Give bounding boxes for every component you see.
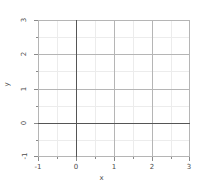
tick-label-x--1: -1	[35, 164, 42, 171]
tick-y-minor-2.5	[36, 37, 38, 38]
tick-label-x-3: 3	[187, 164, 191, 171]
plot-area	[38, 20, 190, 157]
tick-x-minor-1.5	[133, 157, 134, 159]
tick-y-0	[34, 123, 38, 124]
tick-label-y--1: -1	[22, 153, 29, 160]
tick-label-y-3: 3	[21, 18, 28, 22]
tick-x-3	[189, 157, 190, 161]
zero-axis-horizontal	[38, 123, 190, 124]
tick-label-y-2: 2	[21, 52, 28, 56]
tick-y-minor-1.5	[36, 71, 38, 72]
tick-x-minor-0.5	[95, 157, 96, 159]
chart-figure: -1 0 1 2 3 3 2 1 0 -1 x y	[0, 0, 203, 189]
tick-y--1	[34, 156, 38, 157]
gridline-major-x--1	[38, 20, 39, 157]
zero-axis-vertical	[76, 20, 77, 157]
gridline-major-x-3	[189, 20, 190, 157]
tick-x-0	[76, 157, 77, 161]
tick-label-y-1: 1	[21, 87, 28, 91]
tick-x-1	[114, 157, 115, 161]
tick-y-3	[34, 20, 38, 21]
tick-x-minor--0.5	[57, 157, 58, 159]
tick-y-2	[34, 54, 38, 55]
tick-y-minor-0.5	[36, 106, 38, 107]
tick-label-x-0: 0	[74, 164, 78, 171]
tick-x-minor-2.5	[171, 157, 172, 159]
tick-label-x-2: 2	[150, 164, 154, 171]
tick-y-1	[34, 89, 38, 90]
tick-x--1	[38, 157, 39, 161]
tick-y-minor--0.5	[36, 140, 38, 141]
gridline-major-x-2	[152, 20, 153, 157]
tick-label-x-1: 1	[112, 164, 116, 171]
tick-x-2	[152, 157, 153, 161]
x-axis-title: x	[0, 175, 203, 182]
tick-label-y-0: 0	[21, 121, 28, 125]
y-axis-title: y	[4, 82, 11, 86]
gridline-major-x-1	[114, 20, 115, 157]
